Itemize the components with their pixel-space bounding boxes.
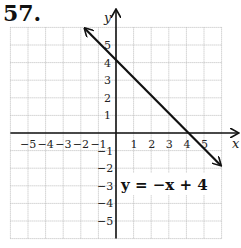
y-tick-label: −2 <box>97 162 113 175</box>
y-tick-label: −4 <box>97 197 113 210</box>
x-tick-label: 2 <box>148 138 155 151</box>
x-axis-label: x <box>232 136 240 151</box>
graph: −5−4−3−2−11234554321−1−2−3−4−5 y = −x + … <box>0 0 241 248</box>
x-tick-label: 3 <box>166 138 173 151</box>
x-tick-label: 1 <box>131 138 138 151</box>
y-tick-label: 2 <box>104 92 111 105</box>
x-tick-label: −4 <box>38 138 54 151</box>
y-tick-label: −5 <box>97 215 113 228</box>
x-tick-label: −5 <box>20 138 36 151</box>
y-tick-label: 3 <box>104 74 111 87</box>
x-tick-label: 4 <box>183 138 190 151</box>
y-tick-label: 1 <box>104 109 111 122</box>
y-axis-label: y <box>103 10 112 25</box>
x-tick-label: −2 <box>73 138 89 151</box>
y-tick-label: −1 <box>97 145 113 158</box>
equation-label: y = −x + 4 <box>120 176 208 194</box>
y-tick-label: −3 <box>97 180 113 193</box>
x-tick-label: −3 <box>55 138 71 151</box>
y-tick-label: 4 <box>104 57 111 70</box>
